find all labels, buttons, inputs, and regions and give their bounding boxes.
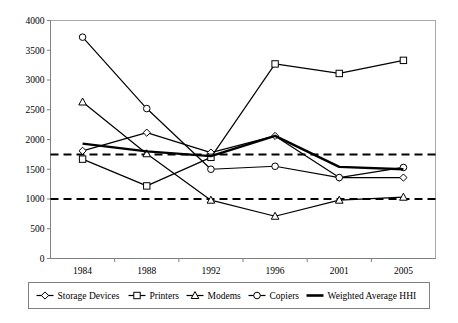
y-axis-tick-label: 3500 [26,46,45,56]
legend-item-label: Modems [208,291,242,301]
legend-item-label: Copiers [270,291,300,301]
y-axis-tick-label: 1500 [26,165,45,175]
marker-circle [336,174,343,181]
x-axis-tick-label: 1984 [73,266,92,276]
x-axis-tick-label: 1992 [201,266,220,276]
y-axis-tick-label: 3000 [26,75,45,85]
plot-area-frame [51,21,436,259]
marker-square [79,156,85,162]
y-axis-tick-label: 2500 [26,105,45,115]
marker-diamond [143,129,150,136]
x-axis-tick-label: 2001 [330,266,349,276]
legend-item-label: Weighted Average HHI [328,291,417,301]
marker-circle [143,105,150,112]
marker-diamond [400,174,407,181]
y-axis-tick-label: 500 [30,224,45,234]
series-copiers [79,34,406,181]
marker-triangle [400,193,408,200]
marker-square [144,183,150,189]
marker-square [336,70,342,76]
series-line [83,37,404,177]
marker-square [400,57,406,63]
marker-triangle [79,98,87,105]
marker-square [134,292,140,298]
marker-circle [208,166,215,173]
marker-diamond [79,147,86,154]
series-printers [79,57,406,189]
legend-item-label: Printers [150,291,180,301]
x-axis-tick-label: 1996 [266,266,285,276]
series-modems [79,98,407,219]
legend-item-label: Storage Devices [58,291,120,301]
marker-circle [254,292,261,299]
marker-circle [79,34,86,41]
marker-square [272,61,278,67]
y-axis-tick-label: 1000 [26,194,45,204]
x-axis-tick-label: 2005 [394,266,413,276]
x-axis-tick-label: 1988 [137,266,156,276]
y-axis-tick-label: 2000 [26,135,45,145]
series-storage-devices [79,129,407,181]
line-chart: 0500100015002000250030003500400019841988… [0,0,458,323]
y-axis-tick-label: 0 [40,254,45,264]
chart-container: 0500100015002000250030003500400019841988… [0,0,458,323]
y-axis-tick-label: 4000 [26,16,45,26]
marker-circle [272,163,279,170]
